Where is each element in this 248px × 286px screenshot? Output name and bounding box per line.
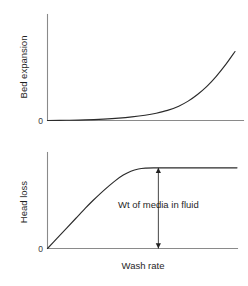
- head-loss-svg: Wt of media in fluid 0 Head loss Wash ra…: [0, 143, 248, 286]
- arrow-head-down-icon: [156, 243, 161, 248]
- figure-container: 0 Bed expansion Wt of media in fluid 0: [0, 0, 248, 286]
- weight-of-media-label: Wt of media in fluid: [118, 199, 199, 210]
- bed-expansion-curve: [48, 52, 236, 121]
- chart-bed-expansion: 0 Bed expansion: [0, 0, 248, 143]
- chart-head-loss: Wt of media in fluid 0 Head loss Wash ra…: [0, 143, 248, 286]
- y-axis-zero-tick: 0: [38, 116, 43, 126]
- y-axis-zero-tick: 0: [38, 244, 43, 254]
- x-axis-title: Wash rate: [122, 260, 165, 271]
- y-axis-title: Head loss: [18, 181, 29, 223]
- arrow-head-up-icon: [156, 168, 161, 173]
- y-axis-title: Bed expansion: [18, 36, 29, 99]
- bed-expansion-svg: 0 Bed expansion: [0, 0, 248, 143]
